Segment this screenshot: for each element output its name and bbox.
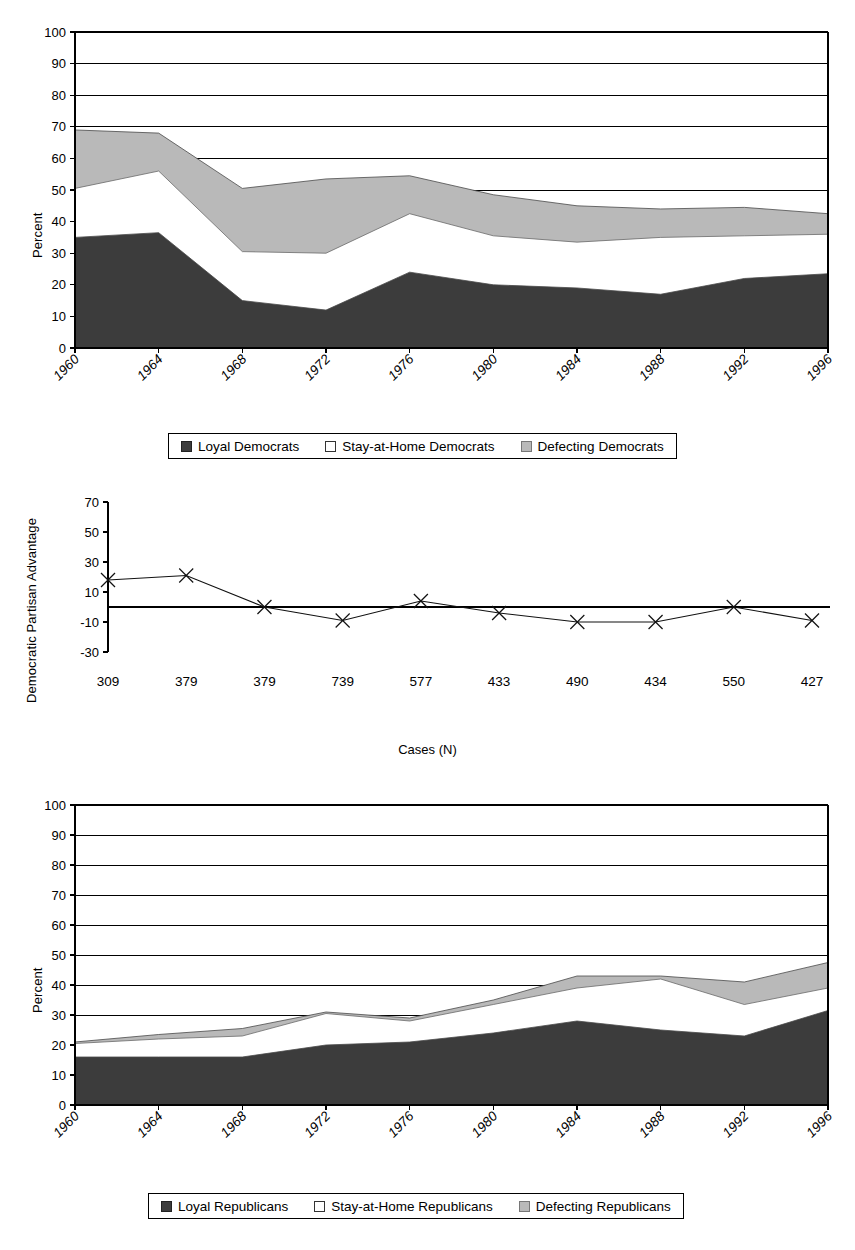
legend-label-loyal-republicans: Loyal Republicans bbox=[178, 1199, 288, 1214]
republicans-area-chart: 0102030405060708090100196019641968197219… bbox=[0, 790, 855, 1180]
svg-text:70: 70 bbox=[52, 888, 66, 903]
legend-swatch-loyal-icon bbox=[161, 1201, 172, 1212]
x-tick-label: 1996 bbox=[803, 351, 835, 383]
legend-label-stayathome-democrats: Stay-at-Home Democrats bbox=[342, 439, 494, 454]
svg-text:10: 10 bbox=[52, 1068, 66, 1083]
x-tick-label: 1996 bbox=[803, 1108, 835, 1140]
data-point-marker bbox=[805, 614, 819, 628]
svg-text:90: 90 bbox=[52, 828, 66, 843]
cases-tick-label: 379 bbox=[253, 674, 276, 689]
legend-swatch-defecting-icon bbox=[521, 441, 532, 452]
x-tick-label: 1976 bbox=[385, 351, 417, 383]
svg-text:30: 30 bbox=[52, 246, 66, 261]
partisan-advantage-plot-area: -30-101030507030937937973957743349043455… bbox=[0, 480, 855, 710]
x-tick-label: 1964 bbox=[134, 1109, 166, 1141]
legend-swatch-loyal-icon bbox=[181, 441, 192, 452]
svg-text:10: 10 bbox=[85, 585, 99, 600]
svg-text:40: 40 bbox=[52, 978, 66, 993]
republicans-y-axis-title: Percent bbox=[30, 967, 45, 1013]
svg-text:-10: -10 bbox=[80, 615, 99, 630]
legend-item-loyal-democrats: Loyal Democrats bbox=[181, 439, 299, 454]
cases-tick-label: 379 bbox=[175, 674, 198, 689]
x-tick-label: 1972 bbox=[301, 1108, 333, 1140]
republicans-panel: 0102030405060708090100196019641968197219… bbox=[0, 790, 855, 1250]
svg-text:100: 100 bbox=[44, 798, 66, 813]
x-tick-label: 1980 bbox=[469, 351, 501, 383]
x-tick-label: 1992 bbox=[720, 351, 752, 383]
svg-text:50: 50 bbox=[52, 948, 66, 963]
x-tick-label: 1960 bbox=[50, 351, 82, 383]
x-tick-label: 1972 bbox=[301, 351, 333, 383]
cases-tick-label: 577 bbox=[410, 674, 433, 689]
x-tick-label: 1968 bbox=[218, 1108, 250, 1140]
partisan-advantage-panel: -30-101030507030937937973957743349043455… bbox=[0, 480, 855, 790]
x-tick-label: 1960 bbox=[50, 1108, 82, 1140]
x-tick-label: 1976 bbox=[385, 1108, 417, 1140]
svg-text:0: 0 bbox=[59, 1098, 66, 1113]
legend-label-defecting-democrats: Defecting Democrats bbox=[538, 439, 664, 454]
x-tick-label: 1988 bbox=[636, 1108, 668, 1140]
republicans-legend: Loyal Republicans Stay-at-Home Republica… bbox=[148, 1193, 684, 1219]
svg-text:0: 0 bbox=[59, 341, 66, 356]
svg-text:40: 40 bbox=[52, 214, 66, 229]
svg-text:50: 50 bbox=[85, 525, 99, 540]
x-tick-label: 1988 bbox=[636, 351, 668, 383]
democrats-area-chart: 0102030405060708090100196019641968197219… bbox=[0, 0, 855, 400]
cases-tick-label: 433 bbox=[488, 674, 511, 689]
data-point-marker bbox=[336, 614, 350, 628]
cases-tick-label: 739 bbox=[331, 674, 354, 689]
cases-tick-label: 490 bbox=[566, 674, 589, 689]
data-point-marker bbox=[414, 594, 428, 608]
svg-text:80: 80 bbox=[52, 88, 66, 103]
legend-item-defecting-democrats: Defecting Democrats bbox=[521, 439, 664, 454]
x-tick-label: 1968 bbox=[218, 351, 250, 383]
svg-text:30: 30 bbox=[85, 555, 99, 570]
cases-tick-label: 309 bbox=[97, 674, 120, 689]
svg-text:70: 70 bbox=[85, 495, 99, 510]
svg-text:50: 50 bbox=[52, 183, 66, 198]
x-tick-label: 1964 bbox=[134, 352, 166, 384]
cases-tick-label: 427 bbox=[801, 674, 824, 689]
legend-label-stayathome-republicans: Stay-at-Home Republicans bbox=[331, 1199, 492, 1214]
democrats-plot-area: 0102030405060708090100196019641968197219… bbox=[0, 0, 855, 400]
cases-tick-label: 434 bbox=[644, 674, 667, 689]
cases-tick-label: 550 bbox=[723, 674, 746, 689]
svg-text:80: 80 bbox=[52, 858, 66, 873]
svg-text:60: 60 bbox=[52, 151, 66, 166]
svg-text:20: 20 bbox=[52, 277, 66, 292]
svg-text:20: 20 bbox=[52, 1038, 66, 1053]
legend-item-loyal-republicans: Loyal Republicans bbox=[161, 1199, 288, 1214]
x-tick-label: 1980 bbox=[469, 1108, 501, 1140]
x-tick-label: 1992 bbox=[720, 1108, 752, 1140]
legend-label-defecting-republicans: Defecting Republicans bbox=[536, 1199, 671, 1214]
partisan-advantage-y-axis-title: Democratic Partisan Advantage bbox=[24, 518, 39, 703]
svg-text:70: 70 bbox=[52, 119, 66, 134]
svg-text:-30: -30 bbox=[80, 645, 99, 660]
republicans-plot-area: 0102030405060708090100196019641968197219… bbox=[0, 790, 855, 1180]
democrats-y-axis-title: Percent bbox=[30, 212, 45, 258]
x-tick-label: 1984 bbox=[552, 1109, 584, 1141]
legend-swatch-stayathome-icon bbox=[325, 441, 336, 452]
democrats-legend: Loyal Democrats Stay-at-Home Democrats D… bbox=[168, 433, 677, 459]
legend-swatch-defecting-icon bbox=[519, 1201, 530, 1212]
legend-label-loyal-democrats: Loyal Democrats bbox=[198, 439, 299, 454]
svg-text:90: 90 bbox=[52, 56, 66, 71]
svg-text:100: 100 bbox=[44, 25, 66, 40]
svg-text:30: 30 bbox=[52, 1008, 66, 1023]
svg-text:10: 10 bbox=[52, 309, 66, 324]
x-tick-label: 1984 bbox=[552, 352, 584, 384]
legend-item-stayathome-republicans: Stay-at-Home Republicans bbox=[314, 1199, 492, 1214]
legend-item-stayathome-democrats: Stay-at-Home Democrats bbox=[325, 439, 494, 454]
data-point-marker bbox=[492, 606, 506, 620]
legend-item-defecting-republicans: Defecting Republicans bbox=[519, 1199, 671, 1214]
svg-text:60: 60 bbox=[52, 918, 66, 933]
partisan-advantage-line-chart: -30-101030507030937937973957743349043455… bbox=[0, 480, 855, 710]
legend-swatch-stayathome-icon bbox=[314, 1201, 325, 1212]
partisan-advantage-x-axis-title: Cases (N) bbox=[0, 742, 855, 757]
democrats-panel: 0102030405060708090100196019641968197219… bbox=[0, 0, 855, 480]
